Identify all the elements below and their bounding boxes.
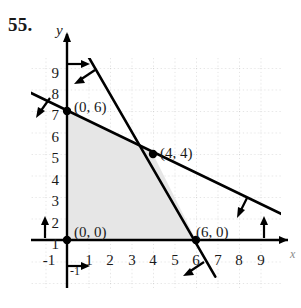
y-tick-4: 4 — [52, 172, 60, 188]
y-tick-neg1: -1 — [70, 264, 80, 278]
y-axis-label: y — [54, 22, 63, 38]
y-axis-arrowhead — [63, 32, 71, 42]
y-tick-2: 2 — [52, 215, 60, 231]
vertex-4-4 — [149, 150, 157, 158]
vertex-origin — [63, 236, 71, 244]
y-tick-3: 3 — [52, 193, 60, 209]
point-label-0-6: (0, 6) — [74, 99, 107, 116]
x-tick-8: 8 — [235, 252, 243, 268]
graph-figure: 55. — [0, 0, 301, 308]
x-tick-7: 7 — [214, 252, 222, 268]
y-tick-5: 5 — [52, 150, 60, 166]
point-label-0-0: (0, 0) — [74, 224, 107, 241]
x-tick-9: 9 — [257, 252, 265, 268]
point-label-6-0: (6, 0) — [196, 224, 229, 241]
x-axis-arrowhead — [279, 236, 288, 244]
point-label-4-4: (4, 4) — [160, 145, 193, 162]
coordinate-plane: 9 8 7 6 5 4 3 2 1 -1 -1 1 2 3 4 5 6 7 8 … — [0, 0, 301, 308]
vertex-0-6 — [63, 107, 71, 115]
x-tick-3: 3 — [128, 252, 136, 268]
x-axis-label: x — [289, 247, 296, 261]
y-tick-9: 9 — [52, 65, 60, 81]
x-tick-5: 5 — [171, 252, 179, 268]
x-tick-2: 2 — [106, 252, 114, 268]
y-tick-1: 1 — [52, 236, 60, 252]
y-tick-6: 6 — [52, 129, 60, 145]
x-tick-1: 1 — [85, 252, 93, 268]
x-tick-6: 6 — [192, 252, 200, 268]
x-tick-neg1: -1 — [43, 252, 56, 268]
x-tick-4: 4 — [149, 252, 157, 268]
y-tick-7: 7 — [52, 107, 60, 123]
y-tick-8: 8 — [52, 86, 60, 102]
